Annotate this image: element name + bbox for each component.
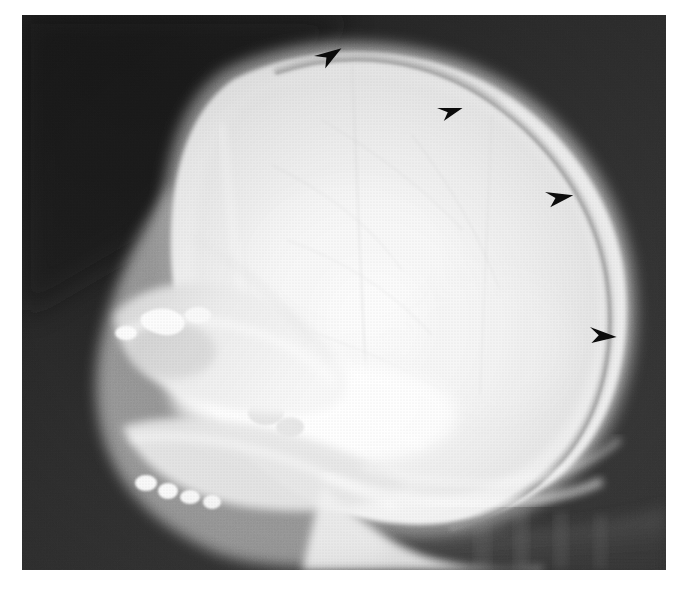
radiograph-canvas bbox=[22, 15, 666, 570]
radiograph-image bbox=[22, 15, 666, 570]
halftone-texture bbox=[22, 15, 666, 570]
radiograph-figure: X-ray radiograph lateral infant skull fa… bbox=[0, 0, 679, 590]
